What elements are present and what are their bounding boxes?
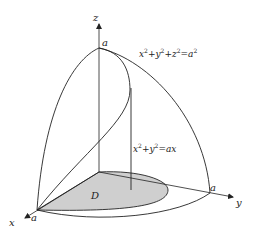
y-intercept-label: a <box>210 182 216 193</box>
x-axis-label: x <box>9 217 15 228</box>
sphere-equation: x2+y2+z2=a2 <box>139 47 197 59</box>
region-d <box>37 172 168 211</box>
z-axis-label: z <box>92 12 99 23</box>
z-intercept-label: a <box>102 37 108 48</box>
sphere-yz-arc <box>99 48 210 193</box>
region-label: D <box>90 190 99 201</box>
cylinder-equation: x2+y2=ax <box>133 142 176 154</box>
y-axis-label: y <box>235 197 242 208</box>
x-intercept-label: a <box>31 212 37 223</box>
sphere-cylinder-diagram: z x y a a a D x2+y2+z2=a2 x2+y2=ax <box>0 0 253 243</box>
